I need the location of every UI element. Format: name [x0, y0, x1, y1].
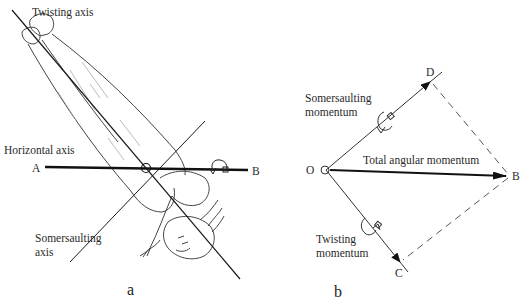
diver-head	[164, 216, 215, 258]
diver-hip	[130, 188, 175, 212]
diver-torso	[160, 171, 209, 205]
diver-figure	[22, 14, 224, 259]
diver-hair	[200, 200, 224, 232]
horizontal-axis-line	[45, 167, 248, 170]
dashed-side-b-c	[403, 178, 508, 260]
total-angular-momentum-label: Total angular momentum	[363, 153, 479, 167]
panel-label-b: b	[334, 283, 342, 301]
point-d-label: D	[426, 65, 434, 79]
diver-foot-front	[22, 27, 40, 44]
somersaulting-axis-label-line1: Somersaulting	[35, 231, 101, 245]
somersaulting-momentum-label-line1: Somersaulting	[305, 91, 371, 105]
twisting-axis-label: Twisting axis	[32, 5, 94, 19]
total-angular-momentum-vector	[330, 170, 506, 176]
point-b-label-a: B	[252, 164, 260, 178]
diver-leg-inner	[52, 34, 175, 150]
point-b-label: B	[512, 169, 520, 183]
horizontal-axis-label: Horizontal axis	[4, 143, 75, 157]
twisting-momentum-label-line2: momentum	[316, 246, 368, 260]
rotation-arrow-icon	[209, 160, 228, 174]
origin-marker	[321, 166, 329, 174]
diver-arm	[146, 196, 172, 252]
somersaulting-momentum-label-line2: momentum	[305, 105, 357, 119]
origin-label: O	[306, 163, 314, 177]
twisting-momentum-label-line1: Twisting	[316, 232, 356, 246]
diagram-canvas	[0, 0, 525, 301]
somersault-rotation-icon	[377, 112, 394, 133]
point-c-label: C	[395, 266, 403, 280]
point-a-label: A	[32, 161, 40, 175]
somersaulting-axis-label-line2: axis	[35, 245, 54, 259]
panel-label-a: a	[127, 281, 134, 299]
diver-face	[176, 236, 190, 251]
